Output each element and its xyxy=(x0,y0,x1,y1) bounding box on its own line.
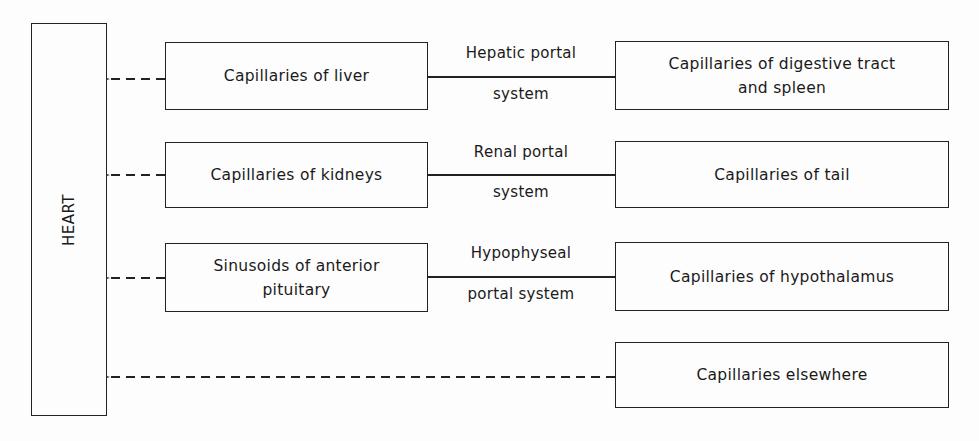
pituitary-sinusoids-label: Sinusoids of anterior pituitary xyxy=(206,254,387,302)
elsewhere-capillaries-label: Capillaries elsewhere xyxy=(696,363,867,387)
heart-box: HEART xyxy=(31,23,107,416)
kidney-capillaries-label: Capillaries of kidneys xyxy=(211,163,383,187)
renal-portal-label-top: Renal portal xyxy=(427,143,615,161)
heart-label: HEART xyxy=(57,193,81,245)
elsewhere-capillaries-box: Capillaries elsewhere xyxy=(615,342,949,408)
hypophyseal-portal-label-bottom: portal system xyxy=(427,285,615,303)
hypophyseal-portal-label-top: Hypophyseal xyxy=(427,244,615,262)
hypothalamus-capillaries-label: Capillaries of hypothalamus xyxy=(670,265,894,289)
pituitary-sinusoids-box: Sinusoids of anterior pituitary xyxy=(165,243,428,312)
renal-portal-label-bottom: system xyxy=(427,183,615,201)
liver-capillaries-label: Capillaries of liver xyxy=(224,64,369,88)
digestive-capillaries-label: Capillaries of digestive tract and splee… xyxy=(656,52,908,100)
digestive-capillaries-box: Capillaries of digestive tract and splee… xyxy=(615,41,949,110)
hepatic-portal-label-bottom: system xyxy=(427,85,615,103)
hepatic-portal-label-top: Hepatic portal xyxy=(427,44,615,62)
liver-capillaries-box: Capillaries of liver xyxy=(165,42,428,110)
hypothalamus-capillaries-box: Capillaries of hypothalamus xyxy=(615,242,949,311)
tail-capillaries-box: Capillaries of tail xyxy=(615,141,949,208)
tail-capillaries-label: Capillaries of tail xyxy=(714,163,850,187)
kidney-capillaries-box: Capillaries of kidneys xyxy=(165,142,428,208)
